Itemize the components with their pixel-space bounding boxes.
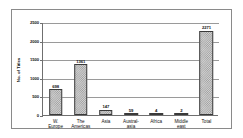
y-axis-tick-label: 500: [32, 95, 39, 99]
bar-value-label: 4: [155, 109, 157, 113]
x-axis-category-label: Africa: [150, 119, 162, 124]
bar-group: 2Middle east: [169, 23, 194, 115]
y-axis-tick-label: 1000: [30, 77, 39, 81]
bar[interactable]: 2: [174, 113, 188, 115]
x-axis-category-label: Asia: [101, 119, 110, 124]
bar-group: 59Austral- asia: [118, 23, 143, 115]
x-axis-category-label: W. Europe: [48, 119, 63, 130]
bar[interactable]: 4: [149, 113, 163, 115]
bar-group: 2271Total: [194, 23, 219, 115]
y-axis-title: No. of Titles: [17, 58, 21, 82]
bar-value-label: 1361: [76, 60, 85, 64]
bar-group: 147Asia: [93, 23, 118, 115]
bar[interactable]: 2271: [200, 31, 214, 115]
bar-value-label: 2271: [202, 26, 211, 30]
y-axis-tick-label: 1500: [30, 58, 39, 62]
bar[interactable]: 698: [49, 89, 63, 115]
bar-value-label: 59: [129, 109, 133, 113]
bar-value-label: 698: [52, 85, 59, 89]
x-axis-category-label: Middle east: [174, 119, 188, 130]
bar-value-label: 147: [103, 105, 110, 109]
x-axis-category-label: The Americas: [71, 119, 90, 130]
plot-area: 25002000150010005000698W. Europe1361The …: [42, 23, 218, 116]
chart-frame: No. of Titles 25002000150010005000698W. …: [11, 9, 232, 129]
x-axis-category-label: Total: [202, 119, 212, 124]
bar-value-label: 2: [180, 109, 182, 113]
y-axis-tick-label: 0: [37, 114, 39, 118]
x-axis-category-label: Austral- asia: [123, 119, 139, 130]
y-axis-tick: [40, 116, 43, 117]
bar[interactable]: 59: [124, 113, 138, 115]
bar-group: 1361The Americas: [68, 23, 93, 115]
bar[interactable]: 1361: [74, 64, 88, 115]
bar-group: 698W. Europe: [43, 23, 68, 115]
y-axis-tick-label: 2000: [30, 39, 39, 43]
bar[interactable]: 147: [99, 110, 113, 115]
y-axis-tick-label: 2500: [30, 21, 39, 25]
bar-group: 4Africa: [144, 23, 169, 115]
